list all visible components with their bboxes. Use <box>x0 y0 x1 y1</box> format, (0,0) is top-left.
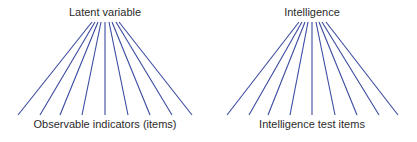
latent-variable-label: Latent variable <box>0 6 210 18</box>
latent-variable-diagram: Latent variable Observable indicators (i… <box>0 0 210 142</box>
observable-indicators-label: Observable indicators (items) <box>0 118 210 130</box>
intelligence-test-items-label: Intelligence test items <box>207 118 417 130</box>
intelligence-label: Intelligence <box>207 6 417 18</box>
intelligence-diagram: Intelligence Intelligence test items <box>207 0 417 142</box>
